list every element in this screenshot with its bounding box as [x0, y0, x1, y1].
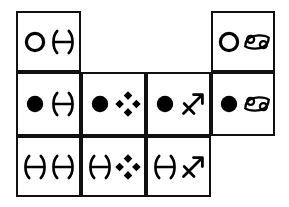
grid-cell-r2c4	[211, 72, 275, 136]
filled-circle-symbol-icon	[216, 89, 242, 119]
grid-cell-r2c1	[16, 72, 81, 136]
cell-symbol-pair	[87, 152, 141, 182]
four-diamond-cluster-symbol-icon	[115, 152, 141, 182]
sagittarius-symbol-icon	[180, 89, 206, 119]
cell-symbol-pair	[87, 89, 141, 119]
grid-cell-r3c3	[146, 136, 211, 197]
grid-cell-r1c1	[16, 11, 81, 72]
filled-circle-symbol-icon	[22, 89, 48, 119]
pisces-symbol-icon	[50, 27, 76, 57]
pisces-symbol-icon	[152, 152, 178, 182]
cell-symbol-pair	[216, 27, 270, 57]
pisces-symbol-icon	[87, 152, 113, 182]
cell-symbol-pair	[152, 152, 206, 182]
cell-symbol-pair	[216, 89, 270, 119]
grid-cell-r2c2	[81, 72, 146, 136]
grid-cell-r3c1	[16, 136, 81, 197]
cancer-symbol-icon	[244, 89, 270, 119]
grid-cell-r1c4	[211, 11, 275, 72]
grid-cell-r3c2	[81, 136, 146, 197]
cell-symbol-pair	[22, 89, 76, 119]
four-diamond-cluster-symbol-icon	[115, 89, 141, 119]
filled-circle-symbol-icon	[87, 89, 113, 119]
pisces-symbol-icon	[50, 89, 76, 119]
filled-circle-symbol-icon	[152, 89, 178, 119]
pisces-symbol-icon	[50, 152, 76, 182]
pisces-symbol-icon	[22, 152, 48, 182]
cell-symbol-pair	[152, 89, 206, 119]
hollow-circle-symbol-icon	[22, 27, 48, 57]
grid-cell-r2c3	[146, 72, 211, 136]
cell-symbol-pair	[22, 152, 76, 182]
cancer-symbol-icon	[244, 27, 270, 57]
symbol-grid-diagram	[0, 0, 289, 207]
hollow-circle-symbol-icon	[216, 27, 242, 57]
sagittarius-symbol-icon	[180, 152, 206, 182]
cell-symbol-pair	[22, 27, 76, 57]
